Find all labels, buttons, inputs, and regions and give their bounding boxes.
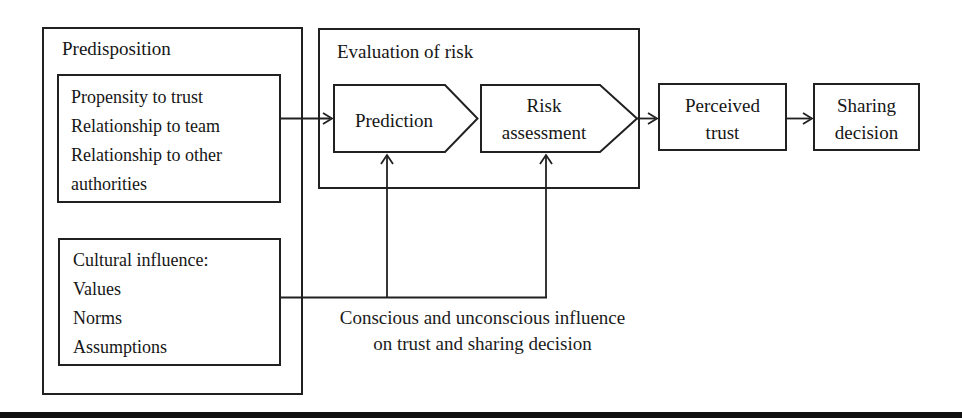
sharing-decision-box: Sharing decision xyxy=(813,83,920,151)
perceived-trust-line: trust xyxy=(660,119,785,146)
prediction-label: Prediction xyxy=(338,107,450,134)
arrowhead-right-sharing xyxy=(803,113,812,124)
perceived-trust-line: Perceived xyxy=(660,92,785,119)
trust-flow-diagram: Predisposition Propensity to trust Relat… xyxy=(0,0,962,419)
factor-line: Relationship to team xyxy=(71,112,279,141)
risk-assessment-line: Risk xyxy=(481,92,607,119)
culture-line: Values xyxy=(73,275,279,304)
sharing-decision-line: Sharing xyxy=(815,92,918,119)
predisposition-factors-box: Propensity to trust Relationship to team… xyxy=(57,74,281,203)
evaluation-of-risk-title: Evaluation of risk xyxy=(337,41,638,62)
risk-assessment-line: assessment xyxy=(481,119,607,146)
arrowhead-right-perceived-trust xyxy=(648,113,657,124)
perceived-trust-box: Perceived trust xyxy=(658,83,787,151)
cultural-influence-box: Cultural influence: Values Norms Assumpt… xyxy=(58,238,281,366)
influence-caption-line: Conscious and unconscious influence xyxy=(300,305,665,331)
risk-assessment-label: Risk assessment xyxy=(481,92,607,146)
factor-line: Relationship to other xyxy=(71,141,279,170)
influence-caption-line: on trust and sharing decision xyxy=(300,331,665,357)
sharing-decision-line: decision xyxy=(815,119,918,146)
predisposition-title: Predisposition xyxy=(62,38,301,59)
factor-line: authorities xyxy=(71,170,279,199)
culture-line: Norms xyxy=(73,304,279,333)
factor-line: Propensity to trust xyxy=(71,83,279,112)
culture-line: Assumptions xyxy=(73,333,279,362)
culture-line: Cultural influence: xyxy=(73,246,279,275)
influence-caption: Conscious and unconscious influence on t… xyxy=(300,305,665,357)
bottom-rule xyxy=(0,412,962,418)
